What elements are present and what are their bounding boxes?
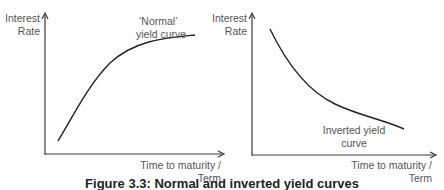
inverted-curve-label: Inverted yield curve [322,124,386,150]
left-axes [42,13,224,157]
right-x-axis-label-line1: Time to maturity / [326,159,432,172]
left-x-axis-label-line1: Time to maturity / [120,159,221,172]
figure-caption: Figure 3.3: Normal and inverted yield cu… [0,176,444,190]
normal-curve-label-line2: yield curve [136,28,186,41]
normal-curve-label-line1: ‘Normal’ [136,15,186,28]
left-y-axis-label-line2: Rate [2,25,40,38]
inverted-curve-label-line2: curve [322,137,386,150]
inverted-curve-label-line1: Inverted yield [322,124,386,137]
right-y-axis-label: Interest Rate [205,12,247,38]
normal-yield-curve [58,35,195,141]
inverted-yield-curve [270,29,404,129]
right-y-axis-label-line1: Interest [205,12,247,25]
normal-curve-label: ‘Normal’ yield curve [136,15,186,41]
left-y-axis-label: Interest Rate [2,12,40,38]
left-y-axis-label-line1: Interest [2,12,40,25]
right-y-axis-label-line2: Rate [205,25,247,38]
